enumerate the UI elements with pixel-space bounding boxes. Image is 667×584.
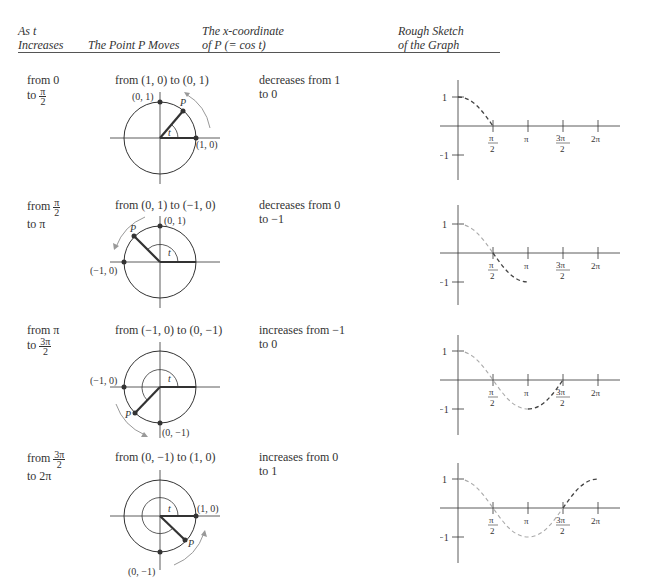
x-change-line: to −1 — [259, 212, 340, 226]
fraction: 3π2 — [53, 450, 65, 469]
x-tick-3pi2-num: 3π — [556, 515, 566, 525]
x-tick-pi2-den: 2 — [490, 526, 495, 536]
y-tick-neg1: −1 — [440, 532, 449, 543]
x-change-line: decreases from 0 — [259, 198, 340, 212]
interval-to: to π2 — [27, 87, 59, 106]
x-tick-pi2-den: 2 — [490, 144, 495, 154]
y-tick-1: 1 — [442, 474, 447, 485]
x-change-line: increases from 0 — [259, 450, 338, 464]
x-change-line: to 0 — [259, 87, 340, 101]
row4-unit-circle: (1, 0) (0, −1) P t — [108, 468, 238, 583]
interval-to: to 3π2 — [27, 337, 59, 356]
y-tick-neg1: −1 — [440, 150, 449, 161]
header-rough-sketch: Rough Sketch of the Graph — [398, 24, 464, 52]
x-tick-3pi2-num: 3π — [556, 133, 566, 143]
x-tick-3pi2-den: 2 — [560, 271, 565, 281]
fraction: π2 — [39, 87, 46, 106]
x-tick-2pi: 2π — [591, 261, 601, 271]
interval-to: to 2π — [27, 469, 65, 483]
fraction: 3π2 — [39, 337, 51, 356]
label-angle-t: t — [168, 503, 171, 514]
label-point-p: P — [179, 97, 186, 108]
frac-den: 2 — [39, 97, 46, 106]
interval-prefix: from — [27, 451, 50, 465]
frac-den: 2 — [53, 460, 65, 469]
x-tick-2pi: 2π — [591, 516, 601, 526]
row1-movement: from (1, 0) to (0, 1) — [115, 73, 209, 87]
x-tick-pi2-num: π — [489, 260, 494, 270]
x-change-line: increases from −1 — [259, 323, 345, 337]
row3-cos-graph: 1 −1 π 2 π 3π 2 2π — [440, 330, 665, 445]
interval-to: to π — [27, 217, 60, 231]
row2-movement: from (0, 1) to (−1, 0) — [115, 198, 215, 212]
label-right: (1, 0) — [197, 503, 219, 515]
x-change-line: to 0 — [259, 337, 345, 351]
y-tick-neg1: −1 — [440, 404, 449, 415]
row3-unit-circle: (−1, 0) (0, −1) P t — [90, 340, 230, 445]
x-tick-pi2-num: π — [489, 133, 494, 143]
header-line: of P (= cos t) — [202, 38, 284, 52]
label-bottom: (0, −1) — [128, 566, 155, 578]
label-bottom: (0, −1) — [162, 427, 189, 439]
label-angle-t: t — [168, 247, 171, 258]
header-line: of the Graph — [398, 38, 464, 52]
interval-from: from 0 — [27, 73, 59, 87]
fraction: π2 — [53, 198, 60, 217]
y-tick-1: 1 — [442, 346, 447, 357]
label-right: (1, 0) — [196, 139, 218, 151]
x-tick-3pi2-den: 2 — [560, 398, 565, 408]
row1-x-change: decreases from 1 to 0 — [259, 73, 340, 101]
header-line: As t — [18, 24, 64, 38]
interval-from: from 3π2 — [27, 450, 65, 469]
label-point-p: P — [124, 409, 131, 420]
header-line: The Point P Moves — [88, 38, 179, 52]
row1-interval: from 0 to π2 — [27, 73, 59, 106]
x-tick-3pi2-num: 3π — [556, 260, 566, 270]
interval-prefix: to — [27, 88, 36, 102]
row4-movement: from (0, −1) to (1, 0) — [115, 450, 215, 464]
label-angle-t: t — [168, 127, 171, 138]
x-tick-2pi: 2π — [591, 134, 601, 144]
label-top: (0, 1) — [132, 91, 154, 103]
row1-unit-circle: (0, 1) (1, 0) P t — [108, 88, 228, 188]
label-angle-t: t — [168, 373, 171, 384]
y-tick-neg1: −1 — [440, 277, 449, 288]
frac-den: 2 — [39, 347, 51, 356]
row3-x-change: increases from −1 to 0 — [259, 323, 345, 351]
label-left: (−1, 0) — [90, 265, 117, 277]
interval-from: from π — [27, 323, 59, 337]
header-line: Increases — [18, 38, 64, 52]
row2-x-change: decreases from 0 to −1 — [259, 198, 340, 226]
interval-from: from π2 — [27, 198, 60, 217]
header-as-t-increases: As t Increases — [18, 24, 64, 52]
header-line: The x-coordinate — [202, 24, 284, 38]
x-tick-3pi2-num: 3π — [556, 387, 566, 397]
row1-cos-graph: 1 −1 π 2 π 3π 2 2π — [440, 75, 665, 190]
row3-movement: from (−1, 0) to (0, −1) — [115, 323, 222, 337]
frac-den: 2 — [53, 208, 60, 217]
row2-cos-graph: 1 −1 π 2 π 3π 2 2π — [440, 200, 665, 315]
label-point-p: P — [129, 223, 136, 234]
x-tick-2pi: 2π — [591, 388, 601, 398]
y-tick-1: 1 — [442, 92, 447, 103]
row4-interval: from 3π2 to 2π — [27, 450, 65, 483]
x-tick-pi2-num: π — [489, 387, 494, 397]
x-tick-3pi2-den: 2 — [560, 526, 565, 536]
row2-interval: from π2 to π — [27, 198, 60, 231]
x-tick-pi: π — [524, 388, 529, 398]
label-point-p: P — [187, 538, 194, 549]
row2-unit-circle: (0, 1) (−1, 0) P t — [90, 212, 230, 312]
y-tick-1: 1 — [442, 219, 447, 230]
x-change-line: to 1 — [259, 464, 338, 478]
header-x-coordinate: The x-coordinate of P (= cos t) — [202, 24, 284, 52]
interval-prefix: from — [27, 199, 50, 213]
x-tick-pi2-den: 2 — [490, 398, 495, 408]
row3-interval: from π to 3π2 — [27, 323, 59, 356]
x-change-line: decreases from 1 — [259, 73, 340, 87]
header-point-p-moves: The Point P Moves — [88, 38, 179, 52]
x-tick-pi2-den: 2 — [490, 271, 495, 281]
x-tick-pi: π — [524, 516, 529, 526]
label-left: (−1, 0) — [90, 375, 117, 387]
x-tick-3pi2-den: 2 — [560, 144, 565, 154]
row4-cos-graph: 1 −1 π 2 π 3π 2 2π — [440, 458, 665, 573]
